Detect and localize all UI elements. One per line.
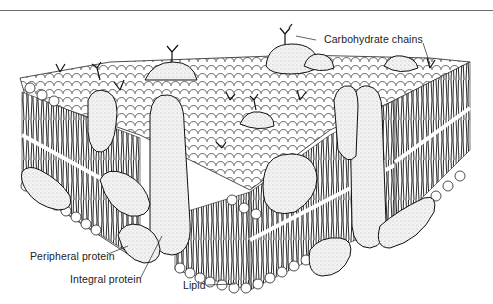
protein-right-back [334, 86, 358, 160]
label-integral-protein: Integral protein [70, 273, 142, 285]
integral-protein-main [150, 95, 190, 255]
label-carbohydrate-chains: Carbohydrate chains [324, 33, 423, 45]
label-peripheral-protein: Peripheral protein [30, 250, 115, 262]
label-lipid: Lipid [183, 279, 206, 291]
